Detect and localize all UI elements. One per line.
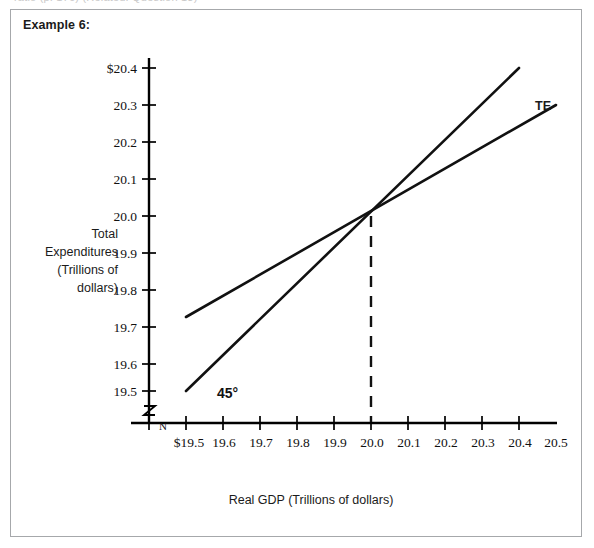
x-tick-label: 19.8	[286, 435, 310, 450]
y-tick-label: 20.3	[113, 98, 137, 113]
y-tick-label: $20.4	[107, 61, 138, 76]
cut-off-header-text: ratio (p. 176) (Related: Question 13)	[14, 0, 198, 3]
y-axis-title-line: (Trillions of	[57, 263, 118, 277]
x-tick-label: 19.6	[212, 435, 236, 450]
x-tick-label: 20.4	[508, 435, 532, 450]
y-tick-label: 20.0	[113, 209, 137, 224]
x-tick-label: 20.5	[544, 435, 568, 450]
y-tick-label: 19.5	[113, 384, 137, 399]
x-axis-title: Real GDP (Trillions of dollars)	[229, 493, 394, 507]
y-axis-title-line: Expenditures	[45, 245, 118, 259]
expenditure-chart: $20.4 20.3 20.2 20.1 20.0 19.9 19.8 19.7…	[11, 10, 581, 536]
x-tick-label: 20.3	[471, 435, 495, 450]
cut-off-header-strip: ratio (p. 176) (Related: Question 13)	[0, 0, 594, 9]
x-tick-label: 19.9	[323, 435, 347, 450]
x-tick-label: 19.7	[249, 435, 273, 450]
y-tick-label: 19.7	[113, 320, 137, 335]
x-tick-label: $19.5	[174, 435, 205, 450]
x-axis-tick-labels: $19.5 19.6 19.7 19.8 19.9 20.0 20.1 20.2…	[174, 435, 568, 450]
x-tick-label: 20.0	[360, 435, 384, 450]
y-tick-label: 19.6	[113, 357, 137, 372]
chart-series	[186, 68, 556, 422]
y-axis-title-line: dollars)	[77, 281, 118, 295]
y-tick-label: 20.2	[113, 135, 137, 150]
forty-five-degree-line	[186, 68, 519, 391]
chart-axes	[131, 58, 557, 423]
x-tick-label: 20.2	[434, 435, 458, 450]
origin-marker-label: N	[159, 420, 167, 432]
forty-five-degree-label: 45°	[217, 385, 238, 401]
te-line-label: TE	[535, 99, 551, 113]
y-axis-title-line: Total	[92, 227, 118, 241]
y-tick-label: 20.1	[113, 172, 137, 187]
x-tick-label: 20.1	[397, 435, 421, 450]
figure-frame: Example 6: $20.4 20.3 20.2 20.1 20.0 19.…	[10, 9, 582, 537]
y-axis-title: Total Expenditures (Trillions of dollars…	[45, 227, 118, 295]
